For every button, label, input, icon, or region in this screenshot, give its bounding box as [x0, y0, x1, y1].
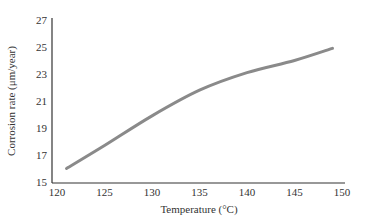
- y-tick-label: 21: [36, 95, 47, 107]
- x-axis-label: Temperature (°C): [160, 203, 238, 216]
- y-tick-label: 19: [36, 122, 48, 134]
- x-tick-label: 135: [191, 186, 208, 198]
- y-tick-label: 25: [36, 41, 48, 53]
- x-tick-labels: 120125130135140145150: [49, 186, 351, 198]
- y-axis-label: Corrosion rate (μm/year): [5, 46, 18, 156]
- x-tick-label: 130: [144, 186, 161, 198]
- x-tick-label: 150: [334, 186, 351, 198]
- y-tick-label: 15: [36, 176, 48, 188]
- y-tick-label: 27: [36, 14, 48, 26]
- x-tick-label: 140: [239, 186, 256, 198]
- corrosion-rate-line: [67, 48, 333, 168]
- x-tick-label: 145: [286, 186, 303, 198]
- x-tick-label: 125: [96, 186, 113, 198]
- y-tick-label: 23: [36, 68, 48, 80]
- y-tick-label: 17: [36, 149, 48, 161]
- axes: [52, 18, 345, 183]
- corrosion-rate-chart: 15171921232527 120125130135140145150 Tem…: [0, 0, 365, 222]
- y-tick-labels: 15171921232527: [36, 14, 48, 188]
- x-tick-label: 120: [49, 186, 66, 198]
